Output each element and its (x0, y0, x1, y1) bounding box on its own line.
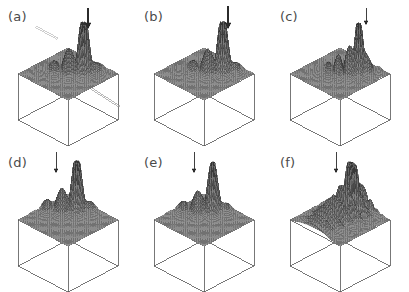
surface-plot-b (136, 0, 272, 146)
panel-b: (b) (136, 0, 272, 146)
surface-plot-c (272, 0, 408, 146)
panel-c: (c) (272, 0, 408, 146)
surface-plot-f (272, 146, 408, 292)
surface-plot-a (0, 0, 136, 146)
surface-plot-e (136, 146, 272, 292)
panel-d: (d) (0, 146, 136, 292)
panel-a: (a) (0, 0, 136, 146)
panel-f: (f) (272, 146, 408, 292)
surface-plot-d (0, 146, 136, 292)
panel-e: (e) (136, 146, 272, 292)
figure-canvas: (a) (b) (c) (d) (e) (f) (0, 0, 409, 292)
